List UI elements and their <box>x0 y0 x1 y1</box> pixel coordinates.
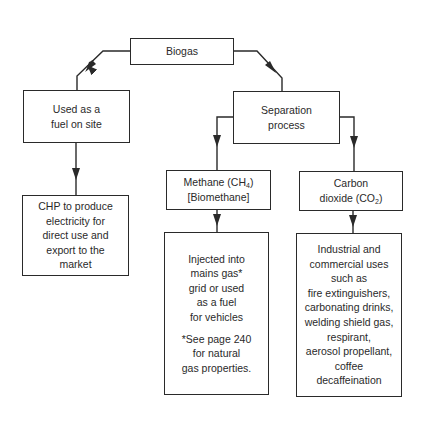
methane-suffix: ) <box>250 176 254 188</box>
co2-suffix: ) <box>379 192 383 204</box>
chp-line: market <box>59 257 91 272</box>
biogas-box: Biogas <box>130 38 234 65</box>
industrial-line: Industrial and <box>317 242 380 257</box>
industrial-line: commercial uses <box>310 257 389 272</box>
industrial-line: decaffeination <box>316 373 381 388</box>
footnote-line: *See page 240 <box>182 332 251 347</box>
chp-box: CHP to produce electricity for direct us… <box>22 195 129 276</box>
injected-line: for vehicles <box>190 310 243 325</box>
co2-line-2: dioxide (CO2) <box>320 191 383 206</box>
methane-box: Methane (CH4) [Biomethane] <box>166 170 271 210</box>
separation-line: Separation <box>261 103 312 118</box>
used-as-fuel-line: fuel on site <box>51 117 102 132</box>
used-as-fuel-box: Used as a fuel on site <box>23 90 130 143</box>
separation-line: process <box>268 118 305 133</box>
separation-process-box: Separation process <box>233 91 340 144</box>
biogas-label: Biogas <box>166 44 198 59</box>
injected-line: mains gas* <box>191 266 243 281</box>
co2-box: Carbon dioxide (CO2) <box>299 171 403 211</box>
chp-line: direct use and <box>43 228 109 243</box>
methane-line-1: Methane (CH4) <box>184 175 254 190</box>
biomethane-line: [Biomethane] <box>188 190 250 205</box>
injected-line: grid or used <box>189 281 244 296</box>
industrial-line: such as <box>331 271 367 286</box>
co2-line-1: Carbon <box>334 176 368 191</box>
injected-line: Injected into <box>188 252 245 267</box>
methane-prefix: Methane (CH <box>184 176 246 188</box>
industrial-line: respirant, <box>327 330 371 345</box>
used-as-fuel-line: Used as a <box>53 102 100 117</box>
industrial-line: fire extinguishers, <box>308 286 390 301</box>
industrial-line: carbonating drinks, <box>305 300 394 315</box>
chp-line: export to the <box>46 243 104 258</box>
industrial-line: coffee <box>335 359 363 374</box>
chp-line: CHP to produce <box>38 199 113 214</box>
industrial-line: welding shield gas, <box>305 315 394 330</box>
injected-line: as a fuel <box>197 295 237 310</box>
industrial-uses-box: Industrial and commercial uses such as f… <box>296 233 402 397</box>
footnote-line: gas properties. <box>182 361 251 376</box>
industrial-line: aerosol propellant, <box>306 344 392 359</box>
injected-box: Injected into mains gas* grid or used as… <box>164 232 269 395</box>
chp-line: electricity for <box>46 214 105 229</box>
co2-prefix: dioxide (CO <box>320 192 375 204</box>
footnote-line: for natural <box>193 346 240 361</box>
